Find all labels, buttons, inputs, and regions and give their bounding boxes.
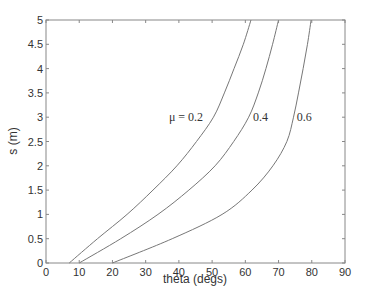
y-tick-label: 3.5 — [28, 87, 43, 99]
curve-mu-0 — [69, 20, 251, 263]
x-tick-label: 70 — [272, 266, 284, 278]
y-tick-label: 0 — [37, 257, 43, 269]
y-tick-label: 2.5 — [28, 136, 43, 148]
x-tick-label: 90 — [339, 266, 351, 278]
x-tick-label: 10 — [73, 266, 85, 278]
y-axis-label: s (m) — [6, 127, 20, 154]
axis-ticks: 010203040506070809000.511.522.533.544.55 — [28, 14, 351, 278]
y-tick-label: 5 — [37, 14, 43, 26]
curve-label: μ = 0.2 — [169, 110, 203, 124]
curve-mu-1 — [79, 20, 278, 263]
x-tick-label: 80 — [306, 266, 318, 278]
curve-label: 0.6 — [297, 110, 312, 124]
x-tick-label: 60 — [239, 266, 251, 278]
y-tick-label: 4 — [37, 63, 43, 75]
curves — [69, 20, 311, 263]
x-tick-label: 0 — [43, 266, 49, 278]
x-tick-label: 30 — [140, 266, 152, 278]
curve-labels: μ = 0.20.40.6 — [169, 110, 312, 124]
y-tick-label: 1 — [37, 208, 43, 220]
curve-mu-2 — [112, 20, 311, 263]
axes-box — [46, 20, 345, 263]
y-tick-label: 3 — [37, 111, 43, 123]
plot-area — [46, 20, 345, 263]
y-tick-label: 4.5 — [28, 38, 43, 50]
y-tick-label: 2 — [37, 160, 43, 172]
y-tick-label: 1.5 — [28, 184, 43, 196]
curve-label: 0.4 — [253, 110, 268, 124]
chart: μ = 0.20.40.6 010203040506070809000.511.… — [0, 0, 368, 304]
x-tick-label: 20 — [106, 266, 118, 278]
x-axis-label: theta (degs) — [163, 272, 227, 286]
y-tick-label: 0.5 — [28, 233, 43, 245]
